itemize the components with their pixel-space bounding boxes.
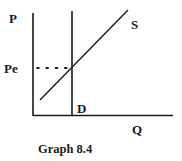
price-axis-label: P	[9, 11, 17, 26]
graph-caption: Graph 8.4	[38, 142, 93, 156]
supply-label: S	[131, 17, 138, 32]
demand-label: D	[77, 101, 86, 116]
equilibrium-price-label: Pe	[4, 61, 18, 76]
quantity-axis-label: Q	[132, 122, 142, 137]
supply-curve	[40, 10, 128, 100]
supply-demand-graph: P Pe S D Q Graph 8.4	[0, 0, 182, 161]
